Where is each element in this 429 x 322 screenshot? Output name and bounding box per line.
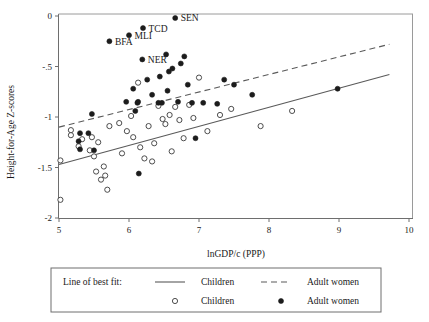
data-point-children [119, 151, 124, 156]
chart-canvas: 5678910 0-.5-1-1.5-2 SENTCDMLIBFANER Hei… [0, 0, 429, 322]
data-point-children [58, 158, 63, 163]
x-tick-label: 6 [127, 225, 132, 235]
data-point-children [94, 169, 99, 174]
data-point-adult-women [140, 57, 145, 62]
data-point-adult-women [107, 39, 112, 44]
data-point-adult-women [78, 147, 83, 152]
data-point-adult-women [78, 131, 83, 136]
data-point-adult-women [136, 171, 141, 176]
x-axis-title: lnGDP/c (PPP) [207, 249, 265, 260]
data-point-adult-women [215, 101, 220, 106]
data-point-children [173, 104, 178, 109]
data-point-children [191, 115, 196, 120]
y-tick-label: -.5 [42, 62, 52, 72]
data-point-children [98, 177, 103, 182]
data-point-children [124, 129, 129, 134]
data-point-adult-women [133, 108, 138, 113]
data-point-adult-women [92, 148, 97, 153]
data-point-children [169, 149, 174, 154]
annotation-sen: SEN [181, 13, 199, 23]
data-point-children [131, 135, 136, 140]
x-tick-label: 10 [405, 225, 415, 235]
data-point-adult-women [193, 136, 198, 141]
data-point-children [163, 121, 168, 126]
data-point-adult-women [165, 88, 170, 93]
annotation-ner: NER [148, 55, 168, 65]
data-point-children [205, 129, 210, 134]
data-point-adult-women [76, 139, 81, 144]
data-point-children [105, 187, 110, 192]
data-point-adult-women [124, 99, 129, 104]
data-point-adult-women [159, 100, 164, 105]
data-point-children [96, 140, 101, 145]
data-point-children [107, 123, 112, 128]
data-point-children [138, 145, 143, 150]
data-point-adult-women [157, 74, 162, 79]
data-point-children [229, 106, 234, 111]
data-point-adult-women [173, 16, 178, 21]
data-point-children [258, 123, 263, 128]
fit-line-adult-women [59, 44, 389, 127]
data-point-adult-women [136, 99, 141, 104]
data-point-children [196, 75, 201, 80]
data-point-children [117, 120, 122, 125]
data-point-adult-women [178, 61, 183, 66]
data-point-adult-women [185, 82, 190, 87]
legend-filled-circle-symbol [279, 299, 284, 304]
data-point-children [101, 164, 106, 169]
data-point-adult-women [86, 131, 91, 136]
legend-title: Line of best fit: [63, 277, 122, 287]
data-point-children [91, 154, 96, 159]
y-tick-label: 0 [48, 11, 53, 21]
x-tick-label: 7 [197, 225, 202, 235]
data-point-children [68, 133, 73, 138]
data-point-children [177, 117, 182, 122]
data-point-adult-women [232, 82, 237, 87]
y-axis-ticks: 0-.5-1-1.5-2 [38, 11, 59, 223]
legend-label: Adult women [307, 277, 359, 287]
data-point-adult-women [250, 92, 255, 97]
x-tick-label: 8 [267, 225, 272, 235]
data-point-children [142, 156, 147, 161]
y-axis-title: Height-for-Age Z-scores [6, 85, 16, 179]
data-point-children [152, 141, 157, 146]
data-point-children [150, 159, 155, 164]
data-point-adult-women [150, 92, 155, 97]
scatter-plot-figure: 5678910 0-.5-1-1.5-2 SENTCDMLIBFANER Hei… [0, 0, 429, 322]
y-tick-label: -1.5 [38, 163, 53, 173]
data-point-adult-women [222, 77, 227, 82]
x-axis-ticks: 5678910 [57, 218, 414, 235]
data-point-children [290, 108, 295, 113]
data-point-adult-women [335, 86, 340, 91]
children-points-group [58, 75, 295, 202]
data-point-children [146, 123, 151, 128]
fit-lines-group [59, 44, 389, 164]
data-point-adult-women [201, 100, 206, 105]
data-point-children [181, 136, 186, 141]
x-tick-label: 9 [337, 225, 342, 235]
data-point-adult-women [131, 86, 136, 91]
data-point-adult-women [89, 111, 94, 116]
data-point-children [136, 80, 141, 85]
data-point-adult-women [145, 77, 150, 82]
data-point-children [167, 112, 172, 117]
data-point-children [103, 173, 108, 178]
annotation-mli: MLI [135, 31, 152, 41]
data-point-children [68, 128, 73, 133]
legend: Line of best fit:ChildrenAdult womenChil… [51, 268, 381, 312]
y-tick-label: -2 [45, 213, 53, 223]
x-tick-label: 5 [57, 225, 62, 235]
legend-label: Children [201, 296, 234, 306]
data-point-adult-women [190, 100, 195, 105]
data-point-adult-women [176, 99, 181, 104]
legend-label: Adult women [307, 296, 359, 306]
data-point-adult-women [170, 66, 175, 71]
data-point-children [217, 112, 222, 117]
data-point-adult-women [182, 54, 187, 59]
legend-open-circle-symbol [172, 298, 177, 303]
annotation-bfa: BFA [115, 37, 133, 47]
data-point-children [58, 197, 63, 202]
data-point-children [160, 116, 165, 121]
legend-label: Children [201, 277, 234, 287]
y-tick-label: -1 [45, 112, 53, 122]
